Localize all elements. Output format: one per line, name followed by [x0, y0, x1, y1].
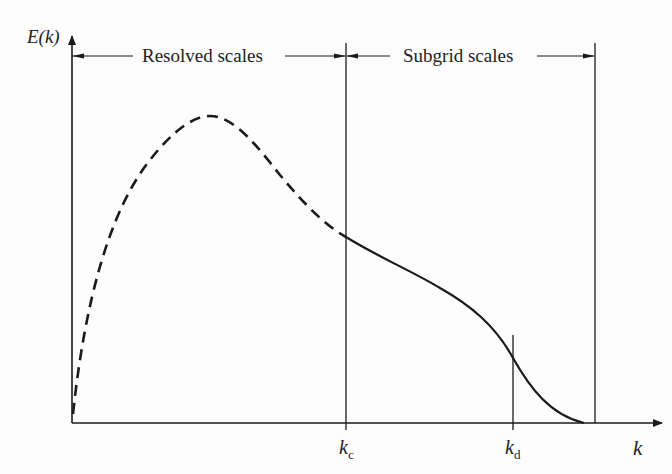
kd-label: kd: [505, 436, 520, 463]
kc-subscript: c: [348, 447, 354, 462]
kc-symbol: k: [339, 436, 348, 458]
resolved-scales-label: Resolved scales: [142, 45, 263, 67]
subgrid-curve: [346, 237, 584, 423]
kd-symbol: k: [505, 436, 514, 458]
resolved-curve: [73, 116, 346, 414]
spectrum-diagram: [0, 0, 672, 474]
subgrid-scales-label: Subgrid scales: [403, 45, 513, 67]
y-axis-label: E(k): [27, 26, 60, 48]
kc-label: kc: [339, 436, 354, 463]
x-axis-label: k: [633, 436, 642, 461]
kd-subscript: d: [514, 447, 521, 462]
